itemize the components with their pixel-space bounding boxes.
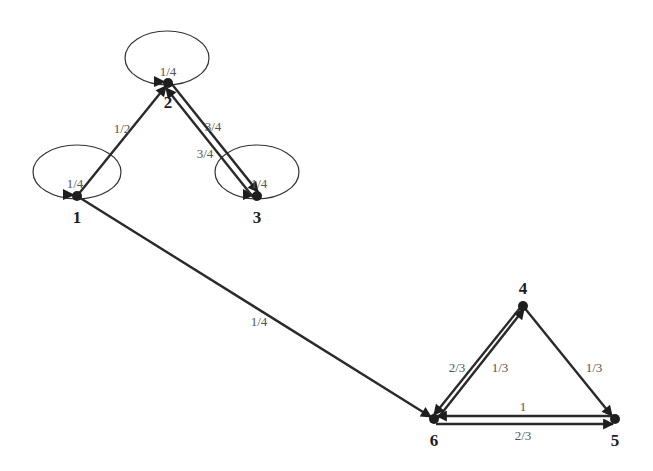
node-6 <box>429 414 439 424</box>
loop-probability-label: 1/4 <box>160 64 177 79</box>
markov-chain-diagram: 1/41/41/41/23/43/41/41/32/31/312/3123456 <box>0 0 653 471</box>
labels: 1/41/41/41/23/43/41/41/32/31/312/3123456 <box>67 64 620 450</box>
self-loops <box>33 31 299 200</box>
edge-2-to-3 <box>171 83 258 192</box>
edge-probability-label: 3/4 <box>205 119 222 134</box>
node-3 <box>252 191 262 201</box>
node-label: 2 <box>164 93 173 112</box>
edge-probability-label: 3/4 <box>197 146 214 161</box>
loop-probability-label: 1/4 <box>251 176 268 191</box>
nodes <box>72 78 620 424</box>
edge-1-to-6 <box>77 196 431 417</box>
edge-1-to-2 <box>77 86 166 196</box>
node-label: 5 <box>611 431 620 450</box>
edge-probability-label: 2/3 <box>449 360 466 375</box>
node-label: 4 <box>519 279 528 298</box>
node-1 <box>72 191 82 201</box>
edge-probability-label: 2/3 <box>515 428 532 443</box>
edge-probability-label: 1/3 <box>492 360 509 375</box>
edge-probability-label: 1/4 <box>251 314 268 329</box>
edge-probability-label: 1/3 <box>586 360 603 375</box>
node-label: 1 <box>73 208 82 227</box>
node-label: 6 <box>430 431 439 450</box>
edges <box>77 83 614 424</box>
node-5 <box>610 414 620 424</box>
loop-probability-label: 1/4 <box>67 176 84 191</box>
edge-probability-label: 1 <box>520 399 527 414</box>
edge-3-to-2 <box>166 88 253 197</box>
node-4 <box>518 301 528 311</box>
node-label: 3 <box>253 208 262 227</box>
node-2 <box>163 78 173 88</box>
edge-probability-label: 1/2 <box>114 121 131 136</box>
